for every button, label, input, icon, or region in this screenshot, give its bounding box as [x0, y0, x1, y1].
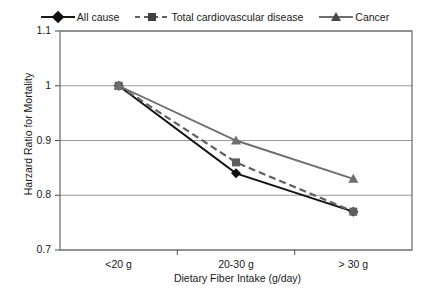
plot-area-wrapper: Harzard Ratio for Mortality Dietary Fibe…: [0, 0, 430, 296]
hazard-ratio-line-chart: All cause Total cardiovascular disease C…: [0, 0, 430, 296]
series-line-total-cardiovascular-disease: [119, 86, 354, 212]
y-tick-label: 0.7: [23, 243, 51, 255]
data-point-marker: [232, 158, 240, 166]
x-tick-label: <20 g: [69, 258, 169, 270]
y-tick-label: 1: [23, 79, 51, 91]
y-tick-label: 1.1: [23, 24, 51, 36]
data-point-marker: [349, 208, 357, 216]
x-tick-label: > 30 g: [303, 258, 403, 270]
y-tick-label: 0.8: [23, 188, 51, 200]
y-tick-label: 0.9: [23, 134, 51, 146]
x-tick-label: 20-30 g: [186, 258, 286, 270]
plot-svg: [0, 0, 430, 296]
x-axis-title: Dietary Fiber Intake (g/day): [60, 272, 415, 284]
series-line-all-cause: [119, 86, 354, 212]
